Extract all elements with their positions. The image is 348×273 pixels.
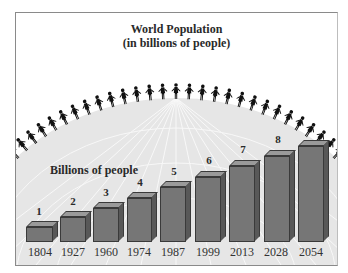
bar-value-label: 4 — [127, 176, 153, 188]
y-axis-label: Billions of people — [50, 163, 138, 178]
x-tick-label: 1974 — [122, 245, 156, 260]
x-tick-label: 1999 — [191, 245, 225, 260]
x-tick-label: 1987 — [156, 245, 190, 260]
x-tick-label: 1960 — [89, 245, 123, 260]
bar-value-label: 1 — [26, 205, 52, 217]
bar-value-label: 8 — [265, 133, 291, 145]
x-tick-label: 1927 — [56, 245, 90, 260]
bar-value-label: 5 — [161, 165, 187, 177]
bar-value-label: 2 — [60, 195, 86, 207]
chart-subtitle: (in billions of people) — [16, 36, 337, 50]
x-tick-label: 2013 — [225, 245, 259, 260]
x-tick-label: 2054 — [294, 245, 328, 260]
bar-value-label: 3 — [93, 186, 119, 198]
bar-value-label: 6 — [196, 154, 222, 166]
x-tick-label: 2028 — [259, 245, 293, 260]
x-tick-label: 1804 — [23, 245, 57, 260]
bar-value-label: 7 — [230, 143, 256, 155]
chart-frame: World Population (in billions of people)… — [15, 12, 338, 266]
chart-title: World Population — [16, 22, 337, 36]
